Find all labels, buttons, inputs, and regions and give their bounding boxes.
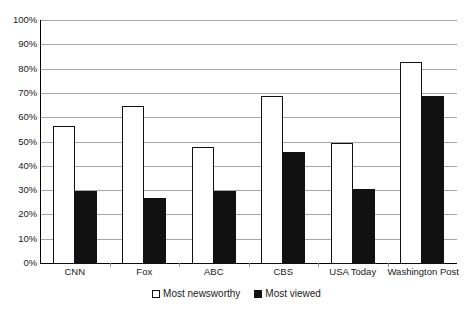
bar [283,152,305,264]
bar-group [122,21,166,264]
legend-label: Most newsworthy [163,288,240,299]
legend-label: Most viewed [265,288,321,299]
x-axis-tick [110,263,111,267]
x-axis-category-label: CNN [40,267,110,277]
bar [144,198,166,264]
bar-group [192,21,236,264]
legend-item: Most viewed [254,288,321,299]
bar [192,147,214,264]
bar-group [261,21,305,264]
legend-item: Most newsworthy [152,288,240,299]
bars-layer [40,20,457,264]
x-axis-tick [318,263,319,267]
y-axis-tick-label: 10% [1,234,37,244]
y-axis-tick-label: 70% [1,88,37,98]
chart-legend: Most newsworthyMost viewed [0,288,473,299]
bar [400,62,422,264]
bar [331,143,353,265]
y-axis-tick-label: 30% [1,185,37,195]
y-axis-tick-label: 60% [1,112,37,122]
y-axis-tick-label: 50% [1,137,37,147]
x-axis-category-label: USA Today [318,267,388,277]
bar-group [53,21,97,264]
grouped-bar-chart: 0%10%20%30%40%50%60%70%80%90%100% CNNFox… [0,0,473,312]
x-axis-category-label: Fox [110,267,180,277]
x-axis-tick [388,263,389,267]
hollow-square-marker-icon [152,290,160,298]
bar [422,96,444,264]
y-axis-tick-label: 100% [1,15,37,25]
y-axis-tick-labels: 0%10%20%30%40%50%60%70%80%90%100% [0,0,37,312]
bar [53,126,75,265]
filled-square-marker-icon [254,290,262,298]
y-axis-tick-label: 80% [1,64,37,74]
bar [122,106,144,264]
bar-group [331,21,375,264]
y-axis-tick-label: 90% [1,39,37,49]
x-axis-category-label: CBS [249,267,319,277]
y-axis-tick-label: 0% [1,258,37,268]
bar [353,189,375,264]
x-axis-category-label: Washington Post [388,267,458,277]
x-axis-tick [179,263,180,267]
bar [261,96,283,264]
x-axis-category-label: ABC [179,267,249,277]
y-axis-tick-label: 40% [1,161,37,171]
bar [75,191,97,264]
y-axis-tick-label: 20% [1,209,37,219]
x-axis-tick [249,263,250,267]
bar-group [400,21,444,264]
bar [214,191,236,264]
